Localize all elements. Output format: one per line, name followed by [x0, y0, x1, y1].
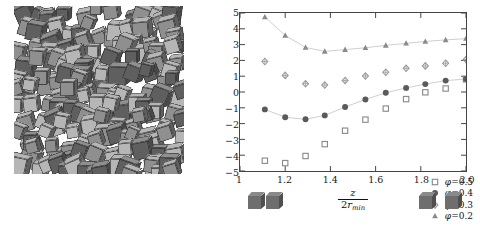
x-tick-label: 1.8 — [414, 174, 429, 185]
cube-glyph — [248, 192, 265, 209]
y-tick-label: −4 — [217, 151, 239, 162]
cube-glyph — [266, 192, 283, 209]
legend-item-phi-0.2[interactable]: φ=0.2 — [428, 211, 473, 223]
y-tick-label: 5 — [217, 7, 239, 18]
y-tick-label: 0 — [217, 87, 239, 98]
x-tick-label: 1.2 — [277, 174, 292, 185]
series-phi-0.5 — [262, 77, 466, 166]
figure-root: −5−4−3−2−101234511.21.41.61.82.0 F12(xmi… — [0, 0, 480, 227]
cube-packing-snapshot — [14, 6, 184, 174]
y-tick-label: −2 — [217, 119, 239, 130]
y-tick-label: −1 — [217, 103, 239, 114]
legend-marker-icon — [428, 177, 442, 187]
packed-cube — [44, 136, 60, 152]
cubes-separated — [419, 192, 462, 212]
packed-cube — [23, 136, 42, 155]
packed-cube — [130, 106, 148, 124]
cube-glyph — [419, 192, 436, 209]
cubes-touching — [248, 192, 283, 212]
y-tick-label: −3 — [217, 135, 239, 146]
legend-label: φ=0.5 — [442, 177, 473, 187]
y-tick-label: 1 — [217, 71, 239, 82]
x-axis-label: z 2rmin — [338, 188, 368, 212]
y-tick-label: 4 — [217, 23, 239, 34]
series-phi-0.4 — [262, 76, 466, 122]
series-phi-0.2 — [262, 14, 466, 54]
packed-cube — [22, 75, 39, 92]
legend-marker-icon — [428, 211, 442, 221]
plot-frame — [239, 12, 467, 172]
plot-data-layer — [240, 13, 466, 171]
packed-cube — [102, 6, 123, 20]
series-phi-0.3 — [262, 56, 466, 88]
y-tick-label: 2 — [217, 55, 239, 66]
cube-glyph — [445, 192, 462, 209]
legend-item-phi-0.5[interactable]: φ=0.5 — [428, 176, 473, 188]
x-tick-label: 1.6 — [368, 174, 383, 185]
y-tick-label: 3 — [217, 39, 239, 50]
x-tick-label: 1.4 — [323, 174, 338, 185]
x-tick-label: 1 — [236, 174, 242, 185]
legend-label: φ=0.2 — [442, 211, 473, 221]
